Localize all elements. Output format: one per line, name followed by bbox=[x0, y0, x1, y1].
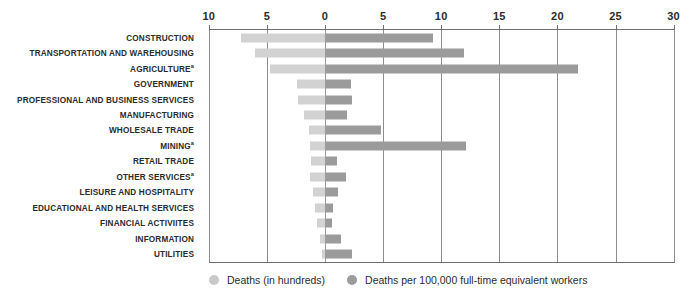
category-label: EDUCATIONAL AND HEALTH SERVICES bbox=[32, 203, 194, 212]
category-label: PROFESSIONAL AND BUSINESS SERVICES bbox=[17, 95, 194, 104]
chart-row: MININGa bbox=[0, 138, 700, 153]
axis-tick-label-row: 105051015202530 bbox=[0, 10, 700, 28]
axis-tick-label: 20 bbox=[551, 10, 564, 22]
category-label: MININGa bbox=[160, 141, 194, 150]
bar-deaths-in-hundreds bbox=[298, 95, 325, 104]
bar-deaths-per-100k bbox=[325, 157, 337, 166]
category-label: OTHER SERVICESa bbox=[116, 172, 194, 181]
axis-tick-mark bbox=[616, 25, 617, 30]
category-label: INFORMATION bbox=[135, 234, 194, 243]
axis-tick-label: 5 bbox=[380, 10, 386, 22]
axis-tick-mark bbox=[441, 25, 442, 30]
category-label: WHOLESALE TRADE bbox=[109, 126, 194, 135]
category-label: TRANSPORTATION AND WAREHOUSING bbox=[30, 49, 194, 58]
bar-deaths-per-100k bbox=[325, 64, 578, 73]
category-footnote-marker: a bbox=[191, 62, 194, 68]
bar-deaths-in-hundreds bbox=[304, 111, 325, 120]
legend-item: Deaths per 100,000 full-time equivalent … bbox=[347, 274, 587, 286]
category-label: AGRICULTUREa bbox=[130, 64, 194, 73]
bar-deaths-per-100k bbox=[325, 234, 341, 243]
bar-deaths-per-100k bbox=[325, 80, 351, 89]
bar-deaths-per-100k bbox=[325, 33, 433, 42]
bar-deaths-in-hundreds bbox=[255, 49, 325, 58]
axis-tick-label: 30 bbox=[667, 10, 680, 22]
axis-tick-mark bbox=[557, 25, 558, 30]
bar-deaths-in-hundreds bbox=[309, 126, 325, 135]
chart-row: INFORMATION bbox=[0, 231, 700, 246]
category-label: MANUFACTURING bbox=[120, 111, 194, 120]
bar-deaths-in-hundreds bbox=[315, 203, 325, 212]
chart-legend: Deaths (in hundreds)Deaths per 100,000 f… bbox=[209, 270, 609, 290]
bar-deaths-per-100k bbox=[325, 250, 352, 259]
legend-label: Deaths per 100,000 full-time equivalent … bbox=[365, 274, 587, 286]
grouped-bidirectional-bar-chart: 105051015202530 CONSTRUCTIONTRANSPORTATI… bbox=[0, 0, 700, 301]
chart-row: UTILITIES bbox=[0, 246, 700, 261]
bar-deaths-in-hundreds bbox=[317, 219, 325, 228]
bar-rows-group: CONSTRUCTIONTRANSPORTATION AND WAREHOUSI… bbox=[0, 30, 700, 262]
chart-row: MANUFACTURING bbox=[0, 107, 700, 122]
axis-tick-label: 0 bbox=[322, 10, 328, 22]
bar-deaths-in-hundreds bbox=[310, 141, 325, 150]
chart-row: OTHER SERVICESa bbox=[0, 169, 700, 184]
category-label: UTILITIES bbox=[154, 250, 194, 259]
chart-row: WHOLESALE TRADE bbox=[0, 123, 700, 138]
axis-tick-label: 15 bbox=[493, 10, 506, 22]
chart-row: TRANSPORTATION AND WAREHOUSING bbox=[0, 45, 700, 60]
bar-deaths-in-hundreds bbox=[310, 172, 325, 181]
bar-deaths-per-100k bbox=[325, 172, 346, 181]
axis-bottom-rule bbox=[209, 262, 675, 263]
axis-tick-mark bbox=[325, 25, 326, 30]
bar-deaths-per-100k bbox=[325, 111, 347, 120]
bar-deaths-per-100k bbox=[325, 126, 381, 135]
category-label: GOVERNMENT bbox=[134, 80, 194, 89]
bar-deaths-in-hundreds bbox=[297, 80, 325, 89]
chart-row: CONSTRUCTION bbox=[0, 30, 700, 45]
chart-row: EDUCATIONAL AND HEALTH SERVICES bbox=[0, 200, 700, 215]
bar-deaths-per-100k bbox=[325, 49, 464, 58]
chart-row: GOVERNMENT bbox=[0, 76, 700, 91]
chart-row: PROFESSIONAL AND BUSINESS SERVICES bbox=[0, 92, 700, 107]
chart-row: AGRICULTUREa bbox=[0, 61, 700, 76]
chart-row: LEISURE AND HOSPITALITY bbox=[0, 185, 700, 200]
category-label: LEISURE AND HOSPITALITY bbox=[80, 188, 194, 197]
bar-deaths-in-hundreds bbox=[241, 33, 325, 42]
category-label: RETAIL TRADE bbox=[133, 157, 194, 166]
dark-circle-swatch bbox=[347, 275, 357, 285]
chart-row: FINANCIAL ACTIVIITES bbox=[0, 216, 700, 231]
category-label: CONSTRUCTION bbox=[126, 33, 194, 42]
axis-tick-label: 25 bbox=[609, 10, 622, 22]
axis-tick-label: 5 bbox=[264, 10, 270, 22]
bar-deaths-per-100k bbox=[325, 188, 338, 197]
bar-deaths-per-100k bbox=[325, 141, 466, 150]
category-footnote-marker: a bbox=[191, 171, 194, 177]
axis-tick-mark bbox=[209, 25, 210, 30]
bar-deaths-per-100k bbox=[325, 95, 352, 104]
bar-deaths-per-100k bbox=[325, 203, 333, 212]
bar-deaths-in-hundreds bbox=[270, 64, 325, 73]
axis-tick-mark bbox=[383, 25, 384, 30]
axis-tick-mark bbox=[267, 25, 268, 30]
bar-deaths-in-hundreds bbox=[311, 157, 325, 166]
chart-row: RETAIL TRADE bbox=[0, 154, 700, 169]
category-label: FINANCIAL ACTIVIITES bbox=[100, 219, 194, 228]
axis-tick-mark bbox=[499, 25, 500, 30]
light-circle-swatch bbox=[209, 275, 219, 285]
axis-tick-label: 10 bbox=[202, 10, 215, 22]
legend-item: Deaths (in hundreds) bbox=[209, 274, 325, 286]
bar-deaths-per-100k bbox=[325, 219, 332, 228]
legend-label: Deaths (in hundreds) bbox=[227, 274, 325, 286]
axis-tick-label: 10 bbox=[435, 10, 448, 22]
axis-tick-mark bbox=[674, 25, 675, 30]
bar-deaths-in-hundreds bbox=[313, 188, 325, 197]
category-footnote-marker: a bbox=[191, 140, 194, 146]
